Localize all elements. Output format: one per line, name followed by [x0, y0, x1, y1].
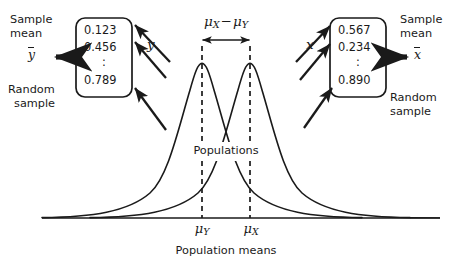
right-sample-mean-caption-line1: Sample — [400, 14, 442, 27]
mu-glyph-2: μ — [233, 13, 242, 29]
mu-x-axis-subscript: X — [252, 226, 259, 237]
mu-x-axis-label: μX — [243, 222, 258, 238]
population-means-caption: Population means — [176, 245, 277, 258]
left-sample-mean-caption-line2: mean — [10, 28, 42, 41]
left-sample-ellipsis: : — [102, 56, 106, 69]
mu-y-subscript: Y — [242, 19, 248, 30]
right-sample-ellipsis: : — [356, 56, 360, 69]
x-bar-glyph: x — [414, 48, 421, 62]
x-bar-symbol: x — [414, 48, 421, 62]
mu-y-axis-subscript: Y — [203, 226, 209, 237]
distribution-diagram — [0, 0, 455, 264]
mu-glyph-1: μ — [204, 13, 213, 29]
right-sample-value-1: 0.567 — [338, 24, 371, 37]
left-random-sample-caption-line1: Random — [8, 84, 55, 97]
right-variable-label: x — [306, 37, 314, 52]
mu-x-subscript: X — [213, 19, 220, 30]
right-random-sample-caption-line1: Random — [390, 92, 437, 105]
minus-sign: − — [220, 13, 233, 29]
right-sampling-arrow-2 — [300, 44, 330, 80]
figure-canvas: Sample mean y Random sample 0.123 0.456 … — [0, 0, 455, 264]
left-random-sample-caption-line2: sample — [14, 98, 55, 111]
mu-y-axis-label: μY — [195, 222, 210, 238]
y-bar-symbol: y — [28, 48, 35, 62]
left-sample-value-1: 0.123 — [84, 24, 117, 37]
left-sample-value-4: 0.789 — [84, 74, 117, 87]
right-random-sample-caption-line2: sample — [390, 106, 431, 119]
difference-of-means-label: μX−μY — [204, 14, 248, 31]
right-sample-value-4: 0.890 — [338, 74, 371, 87]
y-bar-glyph: y — [28, 48, 35, 62]
right-sample-value-2: 0.234 — [338, 41, 371, 54]
left-sample-mean-caption-line1: Sample — [10, 14, 52, 27]
populations-label: Populations — [193, 145, 258, 158]
left-variable-label: y — [147, 37, 155, 52]
left-sampling-arrow-3 — [135, 88, 166, 130]
right-sampling-arrow-3 — [304, 88, 332, 128]
right-sample-mean-caption-line2: mean — [400, 28, 432, 41]
left-sample-value-2: 0.456 — [84, 41, 117, 54]
